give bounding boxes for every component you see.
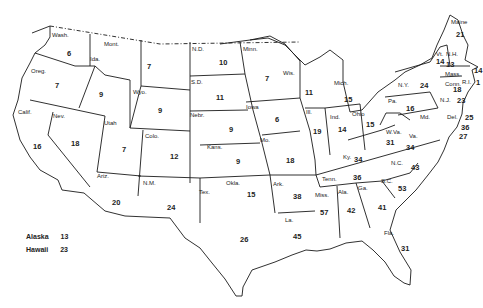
state-abbr: Ariz. [97,173,109,180]
state-abbr: Calif. [18,109,32,116]
legend-item-alaska: Alaska 13 [26,233,68,240]
legend-name: Hawaii [26,246,48,253]
state-abbr: S.C. [381,178,393,185]
state-value: 45 [293,233,301,241]
state-abbr: Wash. [52,32,69,39]
state-value: 26 [240,236,248,244]
state-value: 21 [456,31,464,39]
state-abbr: Minn. [243,46,258,53]
state-value: 23 [457,97,465,105]
state-value: 15 [344,96,352,104]
state-abbr: Nebr. [190,112,204,119]
state-value: 27 [459,133,467,141]
state-abbr: Wis. [283,70,295,77]
state-abbr: Tenn. [322,176,337,183]
state-value: 57 [320,209,328,217]
state-abbr: Tex. [199,189,210,196]
state-value: 18 [286,157,294,165]
state-value: 15 [247,191,255,199]
legend: Alaska 13 Hawaii 23 [26,233,68,253]
state-value: 24 [420,82,428,90]
state-abbr: Iowa [246,104,259,111]
state-value: 11 [216,94,224,102]
state-value: 18 [453,86,461,94]
state-value: 42 [347,207,355,215]
state-value: 11 [305,89,313,97]
state-value: 25 [465,114,473,122]
state-abbr: Oreg. [31,68,46,75]
state-abbr: Mich. [334,80,348,87]
state-abbr: W.Va. [386,129,402,136]
state-value: 12 [170,153,178,161]
state-value: 7 [147,63,151,71]
legend-value: 13 [61,233,69,240]
state-value: 10 [219,59,227,67]
state-abbr: Ga. [358,185,368,192]
state-value: 18 [71,140,79,148]
state-value: 34 [406,144,414,152]
state-value: 9 [99,91,103,99]
state-abbr: N.M. [143,180,156,187]
state-abbr: N.J. [440,97,451,104]
state-abbr: Mont. [104,41,119,48]
state-abbr: Nev. [53,113,65,120]
us-map [0,0,483,308]
state-abbr: Maine [451,19,467,26]
state-abbr: Wyo. [133,89,147,96]
state-abbr: Pa. [388,98,397,105]
state-value: 38 [293,193,301,201]
state-abbr: Kans. [207,144,222,151]
state-abbr: Ky. [343,154,351,161]
state-value: 36 [353,174,361,182]
state-value: 1 [476,79,480,87]
state-abbr: Okla. [226,180,240,187]
state-abbr: La. [285,217,293,224]
state-abbr: Miss. [315,192,329,199]
state-abbr: Md. [420,114,430,121]
state-value: 15 [366,121,374,129]
state-abbr: N.D. [192,46,204,53]
state-value: 20 [112,199,120,207]
state-value: 14 [436,58,444,66]
state-value: 7 [55,82,59,90]
state-value: 7 [122,146,126,154]
state-abbr: Utah [104,120,117,127]
state-value: 34 [354,156,362,164]
state-abbr: Ill. [306,109,312,116]
state-abbr: Fla. [384,230,394,237]
state-abbr: R.I. [462,79,471,86]
state-value: 9 [236,158,240,166]
state-value: 41 [378,204,386,212]
state-value: 36 [461,124,469,132]
state-value: 16 [33,143,41,151]
legend-value: 23 [60,246,68,253]
state-abbr: Ida. [90,56,100,63]
state-abbr: Colo. [145,133,159,140]
legend-name: Alaska [26,233,49,240]
state-abbr: S.D. [191,79,203,86]
state-abbr: Va. [409,133,418,140]
state-abbr: Ala. [338,189,348,196]
state-value: 14 [474,67,482,75]
state-abbr: Ark. [273,181,284,188]
state-value: 6 [275,116,279,124]
legend-item-hawaii: Hawaii 23 [26,246,68,253]
state-abbr: Ohio [352,111,365,118]
state-abbr: Mass. [445,71,461,78]
state-abbr: N.H. [446,51,458,58]
state-value: 53 [398,185,406,193]
state-value: 31 [401,245,409,253]
state-value: 7 [265,75,269,83]
state-value: 13 [446,61,454,69]
state-value: 43 [411,164,419,172]
state-abbr: N.Y. [398,82,409,89]
state-abbr: Del. [447,114,458,121]
state-value: 9 [158,107,162,115]
state-value: 24 [167,204,175,212]
state-value: 6 [67,50,71,58]
state-value: 31 [386,139,394,147]
state-value: 14 [338,126,346,134]
state-value: 16 [406,105,414,113]
state-value: 9 [229,126,233,134]
state-abbr: N.C. [391,160,403,167]
